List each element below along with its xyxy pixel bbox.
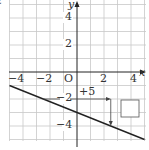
x-axis-label: x — [139, 66, 145, 79]
origin-label: O — [64, 72, 73, 85]
y-tick-label: −4 — [56, 118, 72, 131]
y-tick-label: 2 — [65, 37, 72, 50]
horizontal-arrowhead-icon — [106, 97, 111, 101]
grid — [10, 0, 147, 141]
y-axis-arrow-icon — [75, 1, 80, 7]
x-tick-label: 4 — [130, 72, 137, 85]
y-tick-label: 4 — [65, 10, 72, 23]
x-tick-label: 2 — [100, 72, 107, 85]
x-tick-label: −2 — [36, 72, 52, 85]
y-tick-label: −2 — [56, 91, 72, 104]
x-tick-label: −4 — [8, 72, 24, 85]
horizontal-step-label: +5 — [79, 85, 95, 98]
answer-box — [121, 100, 139, 117]
